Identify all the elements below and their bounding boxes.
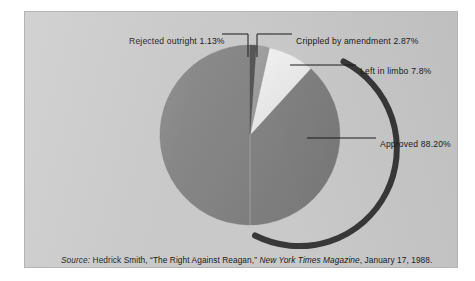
figure-container: Rejected outright 1.13% Crippled by amen…	[0, 0, 475, 281]
slice-label-limbo: Left in limbo 7.8%	[360, 67, 431, 76]
chart-panel: Rejected outright 1.13% Crippled by amen…	[24, 11, 458, 268]
source-publication: New York Times Magazine	[259, 255, 359, 265]
source-citation-text: Hedrick Smith, “The Right Against Reagan…	[90, 255, 259, 265]
source-label: Source:	[61, 255, 90, 265]
slice-label-crippled: Crippled by amendment 2.87%	[296, 37, 419, 46]
slice-label-rejected: Rejected outright 1.13%	[129, 37, 225, 46]
source-date: , January 17, 1988.	[360, 255, 433, 265]
slice-label-approved: Approved 88.20%	[380, 140, 451, 149]
source-note: Source: Hedrick Smith, “The Right Agains…	[61, 255, 432, 268]
source-line-2: Copyright © 1988 by The New York Times C…	[61, 266, 432, 268]
source-line-1: Source: Hedrick Smith, “The Right Agains…	[61, 255, 432, 266]
